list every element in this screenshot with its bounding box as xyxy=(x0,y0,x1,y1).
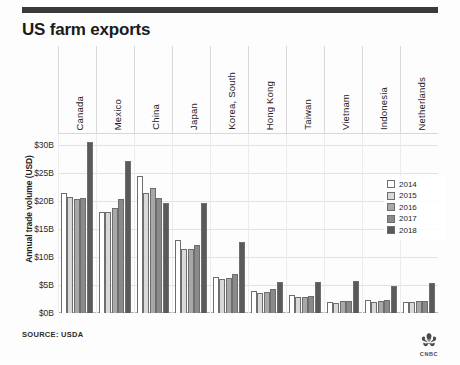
bar-2014-japan xyxy=(175,240,181,313)
legend-label: 2016 xyxy=(399,203,417,212)
bar-2016-taiwan xyxy=(302,297,308,313)
category-separator xyxy=(286,46,287,134)
bar-2014-korea-south xyxy=(213,277,219,313)
bar-2016-china xyxy=(150,188,156,313)
bar-2017-netherlands xyxy=(422,301,428,313)
bar-2017-china xyxy=(156,198,162,313)
category-separator xyxy=(210,46,211,134)
category-separator xyxy=(58,46,59,134)
plot-area: CanadaMexicoChinaJapanKorea, SouthHong K… xyxy=(58,46,438,313)
category-separator xyxy=(134,134,135,313)
category-label: Vietnam xyxy=(340,94,351,130)
bar-2017-canada xyxy=(80,198,86,313)
legend-swatch-icon xyxy=(387,215,395,223)
category-separator xyxy=(96,134,97,313)
source-note: SOURCE: USDA xyxy=(22,330,84,339)
bar-2018-mexico xyxy=(125,161,131,313)
bar-2018-china xyxy=(163,203,169,313)
bar-2015-netherlands xyxy=(409,302,415,313)
bar-2017-taiwan xyxy=(308,296,314,313)
bar-2018-vietnam xyxy=(353,281,359,313)
bar-2016-japan xyxy=(188,249,194,313)
bar-2016-korea-south xyxy=(226,278,232,313)
y-axis: Annual trade volume (USD) $0B$5B$10B$15B… xyxy=(8,46,54,313)
legend-label: 2017 xyxy=(399,214,417,223)
category-separator xyxy=(248,134,249,313)
bar-2014-indonesia xyxy=(365,300,371,313)
legend-item-2016[interactable]: 2016 xyxy=(387,202,444,212)
bar-2016-indonesia xyxy=(378,301,384,313)
bar-2014-taiwan xyxy=(289,295,295,313)
bar-2014-mexico xyxy=(99,212,105,313)
bar-2015-china xyxy=(143,193,149,313)
category-separator xyxy=(58,134,59,313)
bar-2017-vietnam xyxy=(346,301,352,313)
legend-item-2017[interactable]: 2017 xyxy=(387,214,444,224)
legend-swatch-icon xyxy=(387,192,395,200)
bar-2015-mexico xyxy=(105,212,111,313)
category-separator xyxy=(172,46,173,134)
bar-2015-vietnam xyxy=(333,303,339,313)
bars-area xyxy=(58,134,438,313)
bar-2014-canada xyxy=(61,193,67,313)
legend-item-2018[interactable]: 2018 xyxy=(387,225,444,235)
bar-2015-taiwan xyxy=(295,297,301,313)
bar-2018-canada xyxy=(87,142,93,313)
category-separator xyxy=(400,46,401,134)
category-label: China xyxy=(150,104,161,130)
y-axis-tick: $5B xyxy=(39,280,54,290)
bar-2017-mexico xyxy=(118,199,124,313)
category-separator xyxy=(286,134,287,313)
legend-item-2014[interactable]: 2014 xyxy=(387,179,444,189)
y-axis-tick: $25B xyxy=(34,168,54,178)
y-axis-label: Annual trade volume (USD) xyxy=(24,144,34,274)
legend-swatch-icon xyxy=(387,203,395,211)
bar-2016-mexico xyxy=(112,208,118,313)
category-separator xyxy=(134,46,135,134)
bar-2017-indonesia xyxy=(384,300,390,313)
category-label: Indonesia xyxy=(378,87,389,130)
category-separator xyxy=(362,134,363,313)
bar-2014-china xyxy=(137,176,143,313)
category-separator xyxy=(210,134,211,313)
chart-figure: US farm exports Annual trade volume (USD… xyxy=(0,0,460,365)
bar-2016-hong-kong xyxy=(264,292,270,313)
bar-2018-hong-kong xyxy=(277,282,283,313)
legend-swatch-icon xyxy=(387,180,395,188)
bar-2018-korea-south xyxy=(239,242,245,313)
bar-2018-japan xyxy=(201,203,207,313)
legend-swatch-icon xyxy=(387,226,395,234)
legend-label: 2014 xyxy=(399,180,417,189)
category-label-band: CanadaMexicoChinaJapanKorea, SouthHong K… xyxy=(58,46,438,134)
y-axis-tick: $20B xyxy=(34,196,54,206)
category-separator xyxy=(324,134,325,313)
bar-2017-japan xyxy=(194,245,200,313)
page-title: US farm exports xyxy=(22,20,150,40)
chart-legend: 20142015201620172018 xyxy=(384,176,446,240)
bar-2015-japan xyxy=(181,249,187,313)
y-axis-tick: $10B xyxy=(34,252,54,262)
category-label: Taiwan xyxy=(302,99,313,130)
category-separator xyxy=(248,46,249,134)
category-label: Hong Kong xyxy=(264,81,275,130)
bar-2016-canada xyxy=(74,199,80,313)
bar-2017-hong-kong xyxy=(270,289,276,313)
bar-2014-vietnam xyxy=(327,302,333,313)
bar-2014-hong-kong xyxy=(251,291,257,313)
category-separator xyxy=(96,46,97,134)
bar-2018-netherlands xyxy=(429,283,435,313)
legend-item-2015[interactable]: 2015 xyxy=(387,191,444,201)
cnbc-peacock-logo: CNBC xyxy=(412,327,446,357)
bar-2014-netherlands xyxy=(403,302,409,313)
category-separator xyxy=(324,46,325,134)
bar-2015-korea-south xyxy=(219,279,225,313)
category-separator xyxy=(362,46,363,134)
category-label: Japan xyxy=(188,103,199,130)
category-label: Mexico xyxy=(112,99,123,130)
bar-2015-indonesia xyxy=(371,302,377,313)
y-axis-tick: $15B xyxy=(34,224,54,234)
cnbc-logo-text: CNBC xyxy=(420,351,438,357)
y-axis-tick: $30B xyxy=(34,140,54,150)
category-label: Korea, South xyxy=(226,72,237,130)
y-axis-tick: $0B xyxy=(39,308,54,318)
